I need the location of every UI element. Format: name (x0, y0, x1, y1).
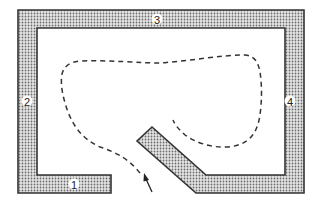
floor-plan-diagram: 1 2 3 4 (0, 0, 317, 207)
svg-text:1: 1 (71, 179, 77, 191)
svg-text:2: 2 (24, 96, 30, 108)
svg-text:3: 3 (154, 14, 160, 26)
entry-arrow-icon (144, 173, 153, 192)
svg-text:4: 4 (287, 96, 293, 108)
